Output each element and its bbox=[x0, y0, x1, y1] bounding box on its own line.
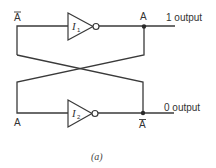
top-output-label: 1 output bbox=[166, 12, 202, 23]
top-feedback-wire bbox=[17, 26, 144, 113]
inverter-i1: I 1 bbox=[68, 13, 99, 40]
inverter-i1-bubble bbox=[93, 24, 99, 30]
top-output-node-label: A bbox=[140, 11, 147, 22]
inverter-i2: I 2 bbox=[68, 100, 98, 127]
inverter-i2-bubble bbox=[92, 111, 98, 117]
bottom-output-label: 0 output bbox=[164, 102, 200, 113]
top-input-wire bbox=[17, 26, 68, 55]
bottom-feedback-wire bbox=[17, 55, 143, 113]
bottom-junction-dot bbox=[141, 111, 145, 115]
top-input-label: A bbox=[14, 12, 21, 23]
top-junction-dot bbox=[142, 24, 146, 28]
flip-flop-diagram: I 1 I 2 A A 1 output A A 0 output (a) bbox=[0, 0, 216, 168]
bottom-input-label: A bbox=[14, 117, 21, 128]
figure-caption: (a) bbox=[91, 151, 103, 163]
bottom-output-node-label: A bbox=[139, 119, 146, 130]
